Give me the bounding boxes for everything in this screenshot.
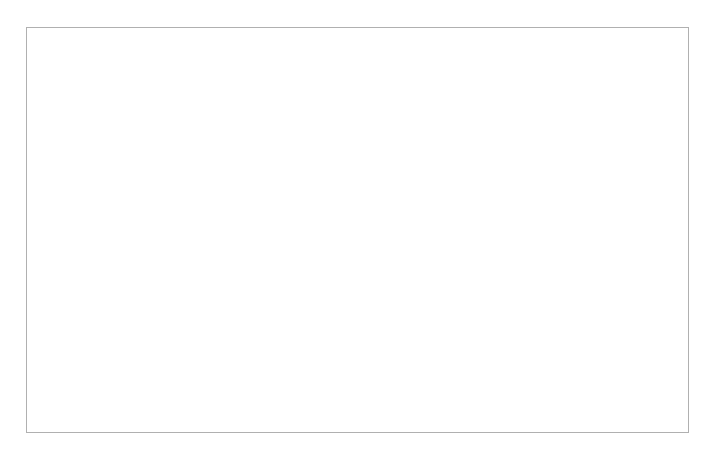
figure-frame bbox=[26, 27, 689, 433]
chart-root: 02040608010040302010010203040506070Woche… bbox=[0, 0, 709, 462]
